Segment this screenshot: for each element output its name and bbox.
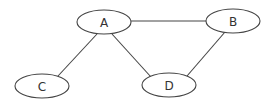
node-d-label: D bbox=[164, 79, 173, 93]
edge-a-d bbox=[112, 34, 151, 77]
node-a: A bbox=[77, 10, 131, 34]
node-c-label: C bbox=[38, 80, 46, 94]
nodes-layer: A B C D bbox=[15, 9, 260, 98]
node-b: B bbox=[206, 9, 260, 33]
node-b-label: B bbox=[229, 15, 237, 29]
edge-b-d bbox=[187, 32, 225, 76]
node-d: D bbox=[142, 73, 196, 97]
node-c: C bbox=[15, 74, 69, 98]
graph-diagram: A B C D bbox=[0, 0, 274, 107]
edge-a-c bbox=[58, 34, 97, 76]
node-a-label: A bbox=[100, 16, 109, 30]
